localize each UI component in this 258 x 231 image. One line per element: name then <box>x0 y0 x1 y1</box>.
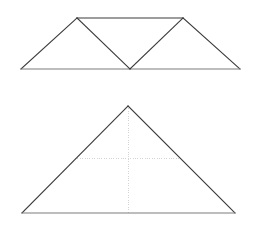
geometry-diagram-canvas <box>0 0 258 231</box>
